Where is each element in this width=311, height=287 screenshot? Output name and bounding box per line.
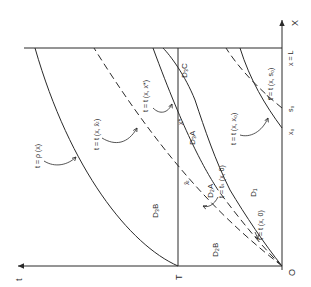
label-t-x-0: t = t (x, 0) [257,210,265,240]
label-t-xbarT: t = t (x, x̄ₜ) [93,119,101,150]
point-x0: x₀ [287,129,294,136]
label-t-xstar: t = t (x, x*) [142,80,150,112]
t-mark-label: T [174,274,184,280]
label-t-s0: t = t (x, s₀) [267,68,275,100]
domain-D3A: D₃A [188,130,197,145]
curve-rho [35,48,178,266]
curve-t-x-0 [163,48,282,266]
domain-D1: D₁ [249,188,258,197]
label-t-x0: t = t (x, x₀) [230,113,238,145]
curve-ts-x-0-dashed [218,190,282,266]
label-rho: t = ρ (x) [34,144,42,168]
point-x-bar-T: x̄ₜ [183,180,190,186]
pointer-rho [44,157,76,165]
pointer-xbarT [102,128,137,143]
domain-D3B: D₃B [151,204,160,218]
label-x-equals-L: x = L [287,51,294,66]
domain-D2A: D₂A [206,183,215,198]
point-s0: s₀ [287,106,294,113]
curve-t-x-x0 [240,48,282,128]
domain-diagram: t = ρ (x) t = t (x, x̄ₜ) t = t (x, x*) t… [0,0,311,287]
x-axis-label: X [290,20,300,26]
label-ts-x-0: t = tₛ (x, 0) [218,165,226,198]
t-axis-label: t [14,278,24,281]
pointer-xstar [153,104,172,112]
origin-label: O [287,269,297,276]
domain-D3C: D₃C [180,63,189,78]
curve-t-x-xbarT-dashed [94,48,282,266]
domain-D2B: D₂B [211,243,220,257]
pointer-x0 [240,118,268,136]
point-x-star: x* [177,119,184,126]
